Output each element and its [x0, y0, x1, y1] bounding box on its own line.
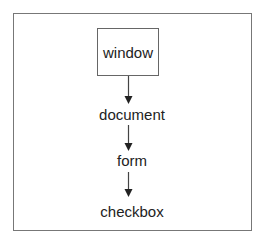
- node-form: form: [0, 152, 264, 169]
- arrow-window-document: [125, 76, 133, 104]
- node-window: window: [97, 28, 159, 76]
- arrow-document-form: [125, 125, 133, 151]
- node-document: document: [0, 106, 264, 123]
- node-window-label: window: [103, 44, 153, 61]
- node-checkbox: checkbox: [0, 203, 264, 220]
- arrow-form-checkbox: [125, 172, 133, 197]
